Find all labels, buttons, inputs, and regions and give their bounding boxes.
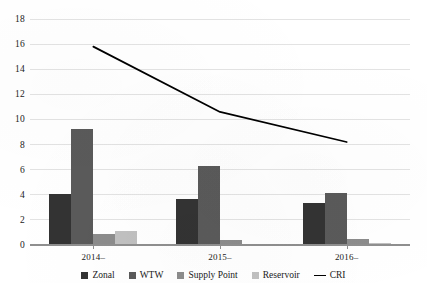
legend-swatch xyxy=(177,272,184,279)
cropped-caption-top xyxy=(0,0,427,7)
y-axis-tick-label: 14 xyxy=(15,64,25,74)
legend-item[interactable]: CRI xyxy=(314,270,346,280)
y-axis-tick-label: 0 xyxy=(20,240,25,250)
legend-item[interactable]: Reservoir xyxy=(252,270,300,280)
y-axis-tick-label: 6 xyxy=(20,165,25,175)
legend-label: WTW xyxy=(140,270,164,280)
chart-container: 024681012141618 2014–2015–2016– ZonalWTW… xyxy=(0,0,427,283)
y-axis-tick-label: 10 xyxy=(15,114,25,124)
cri-line-series xyxy=(30,18,410,245)
legend-swatch xyxy=(129,272,136,279)
y-axis-tick-label: 4 xyxy=(20,190,25,200)
x-axis-tick-mark xyxy=(93,245,94,249)
legend-swatch xyxy=(81,272,88,279)
y-axis-tick-label: 18 xyxy=(15,14,25,24)
y-axis-tick-label: 2 xyxy=(20,215,25,225)
legend-label: Reservoir xyxy=(263,270,300,280)
legend-label: Supply Point xyxy=(188,270,237,280)
plot-area: 024681012141618 2014–2015–2016– xyxy=(30,18,410,245)
y-axis-tick-label: 12 xyxy=(15,89,25,99)
legend-item[interactable]: Zonal xyxy=(81,270,114,280)
x-axis-tick-mark xyxy=(347,245,348,249)
legend-item[interactable]: WTW xyxy=(129,270,164,280)
x-axis-tick-mark xyxy=(220,245,221,249)
x-axis-tick-label: 2015– xyxy=(208,252,232,262)
y-axis-tick-label: 8 xyxy=(20,140,25,150)
legend-line-marker xyxy=(314,275,326,276)
x-axis-tick-label: 2016– xyxy=(335,252,359,262)
legend-label: CRI xyxy=(330,270,346,280)
legend-item[interactable]: Supply Point xyxy=(177,270,237,280)
chart-legend: ZonalWTWSupply PointReservoirCRI xyxy=(0,270,427,280)
x-axis-tick-label: 2014– xyxy=(82,252,106,262)
legend-label: Zonal xyxy=(92,270,114,280)
line-path xyxy=(93,47,346,142)
y-axis-tick-label: 16 xyxy=(15,39,25,49)
legend-swatch xyxy=(252,272,259,279)
